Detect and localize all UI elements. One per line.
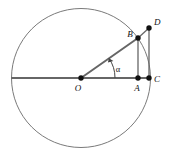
- label-d: D: [153, 17, 161, 27]
- point-c: [146, 75, 151, 80]
- label-a: A: [133, 83, 140, 93]
- label-b: B: [127, 29, 133, 39]
- label-c: C: [154, 74, 161, 84]
- geometry-canvas: O B A C D α: [0, 0, 174, 162]
- geometry-diagram: O B A C D α: [0, 0, 174, 162]
- point-b: [135, 35, 140, 40]
- point-d: [146, 25, 151, 30]
- label-angle-alpha: α: [116, 64, 121, 74]
- label-o: O: [75, 83, 82, 93]
- point-o: [78, 75, 83, 80]
- radius-o-to-b: [81, 38, 138, 78]
- point-a: [135, 75, 140, 80]
